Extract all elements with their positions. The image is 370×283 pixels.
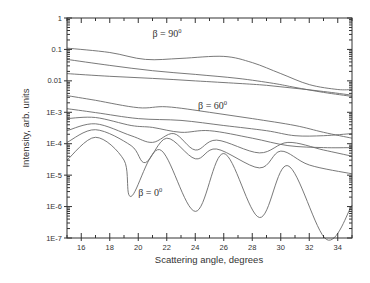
curve-beta=0 — [67, 137, 352, 240]
x-tick-label: 34 — [334, 243, 342, 252]
curve-beta=90 — [67, 48, 352, 90]
x-tick-label: 32 — [305, 243, 313, 252]
x-tick-label: 20 — [134, 243, 142, 252]
x-tick-label: 22 — [163, 243, 171, 252]
curve-annotations: β = 900β = 600β = 00 — [138, 27, 227, 198]
x-tick-label: 24 — [191, 243, 199, 252]
y-tick-label: 1E-3 — [46, 108, 62, 117]
y-axis-title: Intensity, arb. units — [20, 88, 31, 167]
x-tick-label: 18 — [106, 243, 114, 252]
y-tick-label: 1 — [58, 14, 62, 23]
y-tick-label: 1E-6 — [46, 202, 62, 211]
y-tick-label: 1E-5 — [46, 171, 62, 180]
y-tick-label: 0.1 — [52, 45, 62, 54]
y-tick-label: 0.01 — [47, 76, 62, 85]
plot-frame — [67, 18, 352, 238]
curve-curve-2 — [67, 59, 352, 96]
x-tick-label: 28 — [248, 243, 256, 252]
y-axis-tick-labels: 10.10.011E-31E-41E-51E-61E-7 — [46, 14, 62, 243]
x-tick-label: 30 — [277, 243, 285, 252]
line-chart: 16182022242628303234 10.10.011E-31E-41E-… — [0, 0, 370, 283]
x-tick-label: 16 — [77, 243, 85, 252]
y-tick-label: 1E-7 — [46, 234, 62, 243]
x-axis-ticks — [67, 18, 352, 241]
x-tick-label: 26 — [220, 243, 228, 252]
x-axis-tick-labels: 16182022242628303234 — [77, 243, 342, 252]
curve-curve-5 — [67, 109, 352, 136]
curve-curve-6 — [67, 117, 352, 148]
y-tick-label: 1E-4 — [46, 139, 62, 148]
x-axis-title: Scattering angle, degrees — [155, 254, 264, 265]
data-curves — [67, 48, 352, 240]
beta-annotation: β = 00 — [138, 186, 162, 198]
beta-annotation: β = 600 — [198, 99, 227, 111]
beta-annotation: β = 900 — [153, 27, 182, 39]
